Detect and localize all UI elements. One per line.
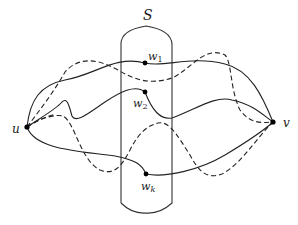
vertex-v-label: v [283,116,290,130]
vertex-w1 [143,61,148,66]
vertex-v [270,119,275,124]
solid-path-u-w1-v [27,61,273,127]
vertex-w2 [143,90,148,95]
separator-label: S [143,7,153,23]
vertex-u [24,124,29,129]
vertex-w2-label: w2 [133,97,148,111]
dashed-path-2 [27,115,273,175]
solid-path-u-wk-v [27,122,273,175]
vertex-wk [144,172,149,177]
vertex-u-label: u [12,122,20,136]
diagram-canvas: S u v w1 w2 wk [0,0,298,225]
solid-path-u-w2-v [27,89,273,127]
vertex-wk-label: wk [141,180,155,194]
vertex-w1-label: w1 [148,50,163,64]
